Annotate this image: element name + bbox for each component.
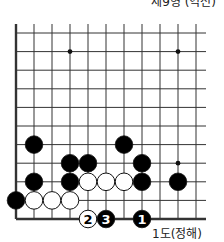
black-stone-icon (79, 154, 97, 172)
black-stone-icon (115, 136, 133, 154)
black-stone-icon (133, 173, 151, 191)
white-stone-icon (25, 192, 43, 210)
white-stone-icon (43, 192, 61, 210)
black-stone-icon (25, 136, 43, 154)
white-stone-icon (79, 173, 97, 191)
white-stone-icon (61, 192, 79, 210)
move-number-label: 3 (101, 212, 110, 227)
black-stone-icon (133, 154, 151, 172)
move-number-label: 1 (137, 212, 146, 227)
star-point-icon (176, 161, 181, 166)
star-point-icon (68, 49, 73, 54)
go-board: 231 (0, 0, 224, 242)
black-stone-icon (61, 173, 79, 191)
white-stone-icon (97, 173, 115, 191)
black-stone-icon (169, 173, 187, 191)
star-point-icon (176, 49, 181, 54)
black-stone-icon (61, 154, 79, 172)
black-stone-icon (25, 173, 43, 191)
black-stone-icon (7, 192, 25, 210)
white-stone-icon (115, 173, 133, 191)
diagram-caption: 1도(정해) (152, 224, 202, 241)
move-number-label: 2 (83, 212, 92, 227)
